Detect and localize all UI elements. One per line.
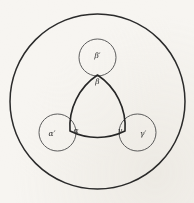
label-gamma-prime: γ′ bbox=[140, 129, 146, 138]
label-alpha-prime: α′ bbox=[49, 129, 56, 138]
geometric-diagram: β′ β α′ α γ γ′ bbox=[0, 0, 194, 203]
label-gamma: γ bbox=[118, 126, 123, 135]
outer-circle bbox=[10, 14, 185, 189]
figure-canvas: β′ β α′ α γ γ′ bbox=[0, 0, 194, 203]
label-beta-prime: β′ bbox=[93, 51, 100, 60]
label-alpha: α bbox=[73, 126, 78, 135]
label-beta: β bbox=[94, 77, 100, 86]
